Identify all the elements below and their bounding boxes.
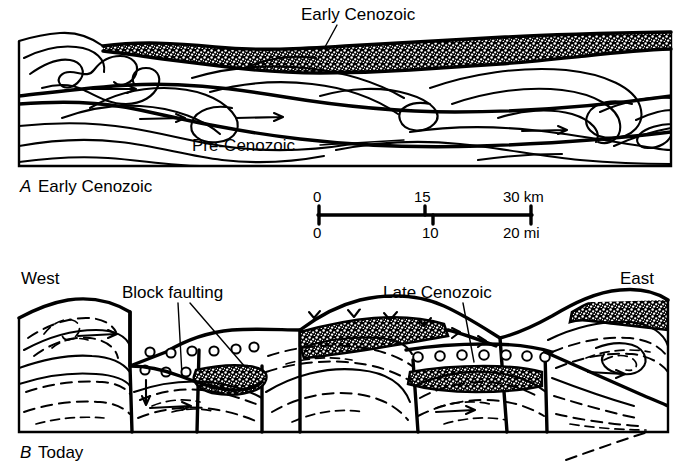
label-west: West: [21, 269, 60, 288]
geologic-cross-section-figure: Early Cenozoic: [0, 0, 689, 471]
caption-a-text: Early Cenozoic: [38, 177, 153, 196]
east-sediment-cap: [570, 291, 668, 330]
thrust-arrow-4: [522, 126, 567, 134]
label-block-faulting: Block faulting: [122, 283, 223, 302]
fault-block-boundary-1b: [197, 350, 199, 432]
panel-b-structure: [19, 291, 668, 430]
normal-fault-arrow-b2: [142, 380, 150, 405]
scale-bar: 0 15 30 km 0 10 20 mi: [313, 188, 544, 241]
label-east: East: [620, 269, 654, 288]
scale-label-mi-0: 0: [313, 224, 321, 241]
scale-label-km-0: 0: [313, 188, 321, 205]
panel-b-today: West East Block faulting Late Cenozoic: [19, 269, 668, 462]
cross-section-canvas: Early Cenozoic: [0, 0, 689, 471]
leader-block-faulting-left: [178, 303, 182, 375]
east-block-folds: [545, 322, 668, 430]
basement-layer-3: [19, 157, 200, 166]
basement-layer-1: [19, 123, 352, 150]
scale-label-km-15: 15: [414, 188, 431, 205]
scale-label-km-30: 30 km: [503, 188, 544, 205]
thrust-fault-major-lower: [19, 102, 671, 147]
label-pre-cenozoic: Pre-Cenozoic: [192, 136, 295, 155]
graben2-conglomerate: [413, 350, 550, 362]
graben2-top-contact: [406, 344, 552, 352]
trailing-inferred-line: [566, 432, 648, 460]
label-early-cenozoic: Early Cenozoic: [301, 5, 416, 24]
fold-hook-left-1: [30, 56, 137, 87]
panel-a-early-cenozoic: Early Cenozoic: [19, 5, 685, 196]
caption-b-letter: B: [20, 443, 31, 462]
thrust-arrow-b2: [150, 402, 191, 410]
caption-b-text: Today: [38, 443, 84, 462]
leader-early-cenozoic: [325, 25, 337, 47]
label-late-cenozoic: Late Cenozoic: [383, 283, 492, 302]
caption-a-letter: A: [19, 177, 31, 196]
thrust-arrow-3: [236, 113, 283, 121]
scale-label-mi-10: 10: [422, 224, 439, 241]
chevron-2: [348, 309, 360, 317]
scale-label-mi-20: 20 mi: [503, 224, 540, 241]
ground-surface-left: [19, 33, 103, 46]
